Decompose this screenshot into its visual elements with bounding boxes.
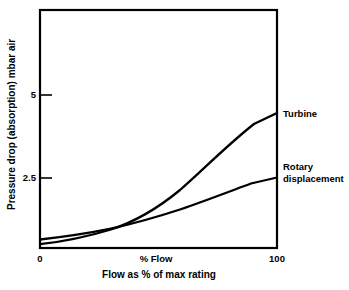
y-axis-title: Pressure drop (absorption) mbar air — [6, 39, 17, 210]
series-curve-rotary-displacement — [40, 178, 277, 240]
series-label-turbine: Turbine — [283, 108, 317, 119]
series-label-rotary-line1: Rotary — [283, 161, 314, 172]
plot-frame — [40, 10, 277, 248]
series-curve-turbine — [40, 113, 277, 244]
x-tick-label-0: 0 — [37, 253, 42, 264]
pressure-drop-chart: Pressure drop (absorption) mbar air 5 2.… — [0, 0, 349, 290]
chart-page: Pressure drop (absorption) mbar air 5 2.… — [0, 0, 349, 290]
y-tick-label-5: 5 — [31, 89, 37, 100]
x-axis-title: Flow as % of max rating — [102, 269, 216, 280]
y-tick-label-2-5: 2.5 — [23, 172, 37, 183]
x-tick-label-100: 100 — [269, 253, 285, 264]
series-label-rotary-line2: displacement — [283, 173, 345, 184]
x-axis-inner-label: % Flow — [140, 253, 173, 264]
